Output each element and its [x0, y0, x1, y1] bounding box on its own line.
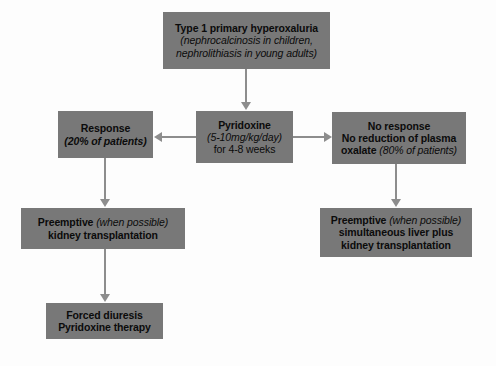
node-no-response-line-3: oxalate (80% of patients)	[341, 144, 457, 156]
node-pyridoxine-line-1: Pyridoxine	[218, 119, 271, 131]
edge-pyridoxine-to-response	[162, 136, 196, 138]
node-no-response-line-1: No response	[368, 120, 431, 132]
node-no-response-line-2: No reduction of plasma	[342, 132, 456, 144]
node-forced-line-2: Pyridoxine therapy	[58, 321, 151, 333]
node-diagnosis-line-2: (nephrocalcinosis in children,	[180, 34, 312, 46]
node-kidney-line-1-italic: (when possible)	[96, 216, 168, 228]
node-response: Response (20% of patients)	[58, 111, 153, 158]
node-liver-line-1-bold: Preemptive	[331, 214, 389, 226]
node-liver-line-3: kidney transplantation	[341, 239, 451, 251]
node-kidney-line-1-bold: Preemptive	[38, 216, 96, 228]
node-kidney-transplantation: Preemptive (when possible) kidney transp…	[21, 208, 185, 249]
node-no-response-line-3-italic: (80% of patients)	[379, 144, 457, 156]
node-diagnosis-line-3: nephrolithiasis in young adults)	[176, 47, 317, 59]
arrowhead-kidney-to-forced	[100, 294, 110, 302]
node-forced-diuresis: Forced diuresis Pyridoxine therapy	[46, 303, 163, 339]
node-liver-line-1-italic: (when possible)	[389, 214, 461, 226]
node-kidney-line-1: Preemptive (when possible)	[38, 216, 168, 228]
node-diagnosis: Type 1 primary hyperoxaluria (nephrocalc…	[163, 12, 330, 69]
node-pyridoxine-line-2: (5-10mg/kg/day)	[207, 131, 282, 143]
edge-pyridoxine-to-noresponse	[293, 136, 325, 138]
arrowhead-noresponse-to-liver	[391, 199, 401, 207]
edge-noresponse-to-liver	[395, 164, 397, 200]
arrowhead-diagnosis-to-pyridoxine	[241, 102, 251, 110]
node-pyridoxine-line-3: for 4-8 weeks	[214, 143, 276, 155]
node-no-response: No response No reduction of plasma oxala…	[332, 112, 466, 164]
arrowhead-pyridoxine-to-response	[154, 132, 162, 142]
node-forced-line-1: Forced diuresis	[66, 309, 143, 321]
edge-diagnosis-to-pyridoxine	[245, 69, 247, 103]
node-liver-kidney-transplantation: Preemptive (when possible) simultaneous …	[320, 208, 472, 257]
node-liver-line-2: simultaneous liver plus	[339, 226, 453, 238]
node-diagnosis-line-1: Type 1 primary hyperoxaluria	[175, 22, 318, 34]
node-liver-line-1: Preemptive (when possible)	[331, 214, 461, 226]
node-no-response-line-3-bold: oxalate	[341, 144, 379, 156]
arrowhead-pyridoxine-to-noresponse	[324, 132, 332, 142]
node-pyridoxine: Pyridoxine (5-10mg/kg/day) for 4-8 weeks	[196, 111, 293, 163]
edge-response-to-kidney	[104, 158, 106, 200]
node-kidney-line-2: kidney transplantation	[48, 229, 158, 241]
node-response-line-1: Response	[81, 122, 130, 134]
edge-kidney-to-forced	[104, 249, 106, 295]
flowchart-canvas: Type 1 primary hyperoxaluria (nephrocalc…	[0, 0, 496, 366]
arrowhead-response-to-kidney	[100, 199, 110, 207]
node-response-line-2: (20% of patients)	[64, 135, 146, 147]
